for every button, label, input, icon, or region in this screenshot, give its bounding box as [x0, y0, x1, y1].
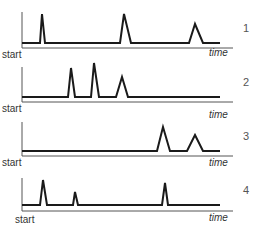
spike-train-diagram: start time 1 start time 2 start time 3 s…: [0, 0, 259, 236]
spike-trace: [22, 127, 220, 151]
axis-start-label: start: [2, 157, 22, 168]
panel-2: start time 2: [2, 63, 249, 120]
panel-4: start time 4: [15, 178, 249, 225]
panel-3: start time 3: [2, 122, 249, 168]
spike-trace: [22, 14, 220, 43]
axis-time-label: time: [209, 109, 228, 120]
panel-number: 4: [243, 184, 249, 196]
axis-start-label: start: [2, 49, 22, 60]
panel-number: 1: [243, 22, 249, 34]
panel-number: 2: [243, 76, 249, 88]
axis-time-label: time: [209, 212, 228, 223]
axis-time-label: time: [209, 47, 228, 58]
spike-trace: [22, 180, 220, 205]
axis-time-label: time: [209, 157, 228, 168]
axis-start-label: start: [15, 214, 35, 225]
panel-1: start time 1: [2, 12, 249, 60]
axis-start-label: start: [2, 103, 22, 114]
panel-number: 3: [243, 130, 249, 142]
spike-trace: [22, 63, 220, 97]
